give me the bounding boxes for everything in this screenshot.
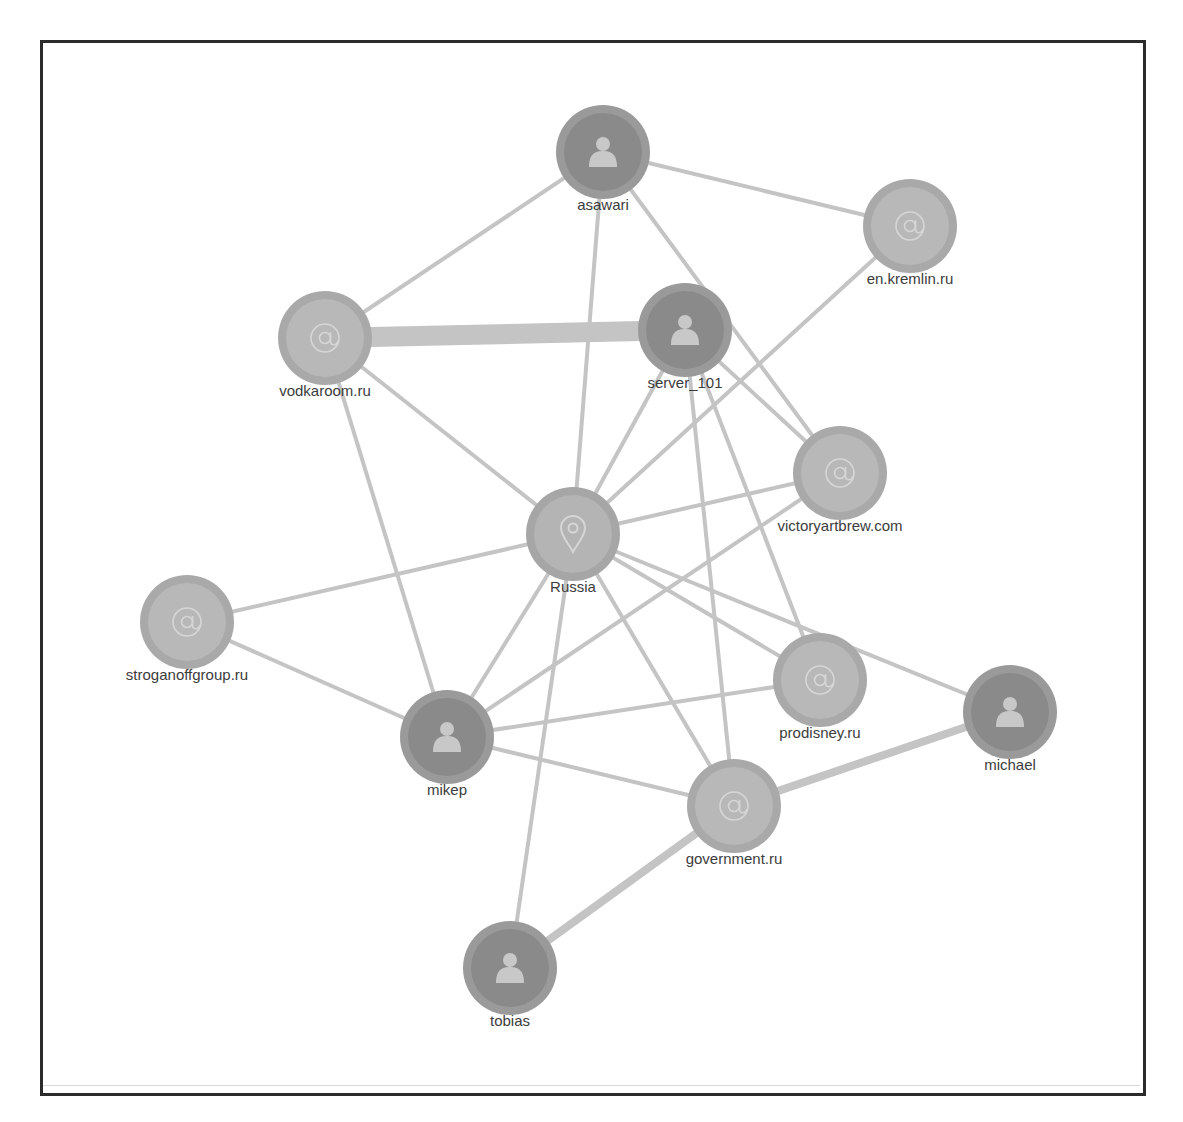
node-label: server_101: [647, 374, 722, 391]
node-label: government.ru: [686, 850, 783, 867]
node-label: prodisney.ru: [779, 724, 860, 741]
node-russia[interactable]: Russia: [526, 487, 620, 595]
node-core: [534, 495, 612, 573]
node-label: en.kremlin.ru: [867, 270, 954, 287]
edge-russia-stroganoff[interactable]: [187, 534, 573, 622]
node-core: [871, 187, 949, 265]
edge-vodkaroom-server_101[interactable]: [325, 330, 685, 338]
node-core: [695, 767, 773, 845]
node-label: mikep: [427, 781, 467, 798]
node-en_kremlin[interactable]: en.kremlin.ru: [863, 179, 957, 287]
node-core: [801, 434, 879, 512]
node-label: Russia: [550, 578, 597, 595]
node-core: [148, 583, 226, 661]
node-michael[interactable]: michael: [963, 665, 1057, 773]
node-server_101[interactable]: server_101: [638, 283, 732, 391]
edge-asawari-vodkaroom[interactable]: [325, 152, 603, 338]
edge-vodkaroom-russia[interactable]: [325, 338, 573, 534]
edge-mikep-prodisney[interactable]: [447, 680, 820, 737]
node-label: asawari: [577, 196, 629, 213]
node-label: tobias: [490, 1012, 530, 1029]
node-mikep[interactable]: mikep: [400, 690, 494, 798]
node-label: victoryartbrew.com: [777, 517, 902, 534]
node-label: vodkaroom.ru: [279, 382, 371, 399]
node-prodisney[interactable]: prodisney.ru: [773, 633, 867, 741]
node-core: [286, 299, 364, 377]
node-victoryartbrew[interactable]: victoryartbrew.com: [777, 426, 902, 534]
network-graph[interactable]: asawarien.kremlin.ruvodkaroom.ruserver_1…: [0, 0, 1183, 1122]
node-tobias[interactable]: tobias: [463, 921, 557, 1029]
node-stroganoff[interactable]: stroganoffgroup.ru: [126, 575, 248, 683]
edge-russia-tobias[interactable]: [510, 534, 573, 968]
node-vodkaroom[interactable]: vodkaroom.ru: [278, 291, 372, 399]
nodes-layer: asawarien.kremlin.ruvodkaroom.ruserver_1…: [126, 105, 1057, 1029]
node-government[interactable]: government.ru: [686, 759, 783, 867]
node-core: [781, 641, 859, 719]
node-label: stroganoffgroup.ru: [126, 666, 248, 683]
node-label: michael: [984, 756, 1036, 773]
